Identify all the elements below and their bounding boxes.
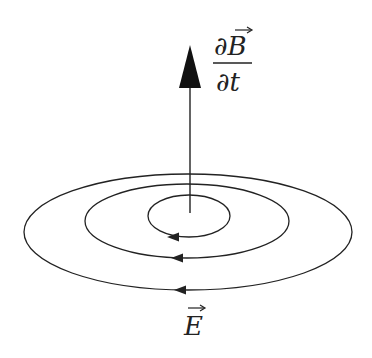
outer-field-loop	[24, 174, 352, 290]
db-dt-label: ∂B ∂t	[213, 27, 252, 97]
induction-diagram: ∂B ∂t E	[0, 0, 372, 358]
middle-loop-arrow-icon	[171, 254, 183, 263]
db-dt-arrow-head-icon	[179, 45, 201, 88]
e-field-text: E	[183, 311, 203, 341]
e-field-label: E	[183, 305, 205, 341]
outer-loop-arrow-icon	[174, 286, 186, 295]
db-dt-numerator: ∂B	[214, 31, 247, 61]
inner-field-loop	[148, 195, 230, 237]
db-dt-denominator: ∂t	[216, 67, 240, 97]
